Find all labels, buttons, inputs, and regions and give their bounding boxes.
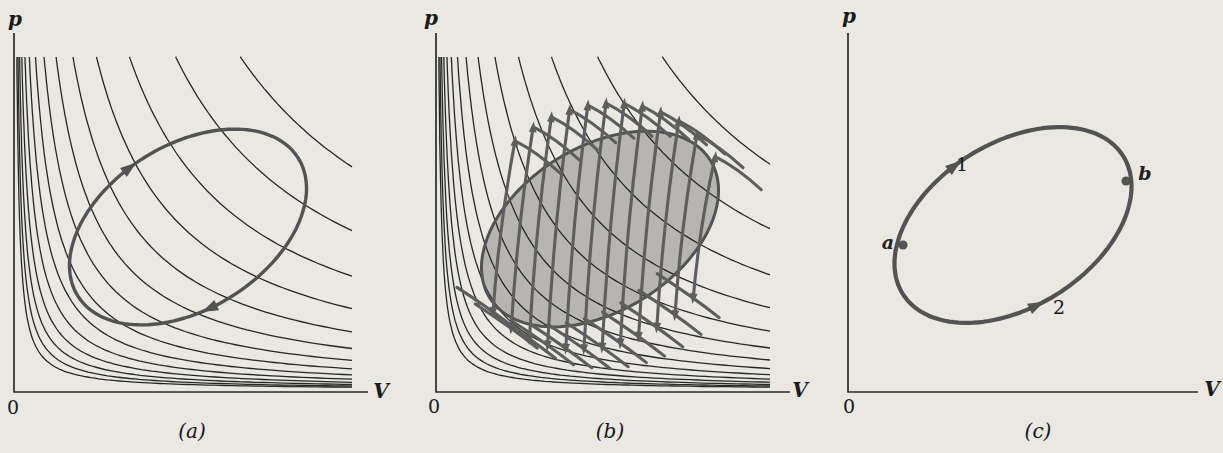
origin-label: 0 — [7, 396, 19, 418]
panel-b-plot: p V 0 (b) — [408, 0, 816, 453]
volume-axis-label: V — [373, 379, 391, 403]
figure-canvas: p V 0 (a) p V 0 (b) p V 0 a b 1 2 (c) — [0, 0, 1223, 453]
pressure-axis-label: p — [8, 7, 22, 31]
origin-label: 0 — [428, 395, 440, 417]
pressure-axis-label: p — [842, 4, 856, 28]
path-label-2: 2 — [1053, 296, 1065, 318]
panel-c-plot: p V 0 a b 1 2 (c) — [816, 0, 1223, 453]
panel-c: p V 0 a b 1 2 (c) — [816, 0, 1223, 453]
volume-axis-label: V — [1204, 377, 1222, 401]
panel-caption: (a) — [178, 419, 206, 443]
plot-layer — [848, 33, 1198, 392]
point-label-b: b — [1138, 162, 1151, 184]
panel-caption: (b) — [596, 419, 624, 443]
origin-label: 0 — [843, 395, 855, 417]
point-label-a: a — [882, 231, 894, 253]
plot-layer — [436, 33, 790, 392]
panel-a-plot: p V 0 (a) — [0, 0, 408, 453]
volume-axis-label: V — [792, 378, 810, 402]
plot-layer — [14, 33, 368, 392]
panel-a: p V 0 (a) — [0, 0, 408, 453]
path-label-1: 1 — [956, 153, 968, 175]
panel-caption: (c) — [1025, 419, 1052, 443]
panel-b: p V 0 (b) — [408, 0, 816, 453]
pressure-axis-label: p — [424, 6, 438, 30]
